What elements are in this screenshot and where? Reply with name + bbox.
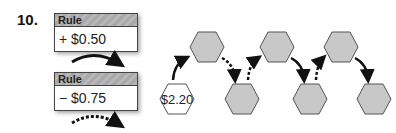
solid-arrow-icon	[291, 58, 304, 79]
hexagon-blank	[357, 84, 391, 114]
dashed-arrow-legend-icon	[72, 116, 120, 125]
solid-arrow-icon	[355, 58, 368, 79]
hexagon-blank	[260, 32, 294, 62]
solid-arrow-legend-icon	[72, 55, 120, 64]
dashed-arrow-icon	[222, 58, 235, 79]
hexagon-blank	[293, 84, 327, 114]
hexagon-blank	[225, 84, 259, 114]
hexagon-pattern-diagram: $2.20	[0, 0, 396, 133]
start-value: $2.20	[161, 92, 194, 107]
solid-arrow-icon	[173, 58, 186, 80]
dashed-arrow-icon	[316, 58, 323, 80]
hexagon-blank	[190, 32, 224, 62]
dashed-arrow-icon	[248, 58, 258, 80]
hexagon-blank	[324, 32, 358, 62]
